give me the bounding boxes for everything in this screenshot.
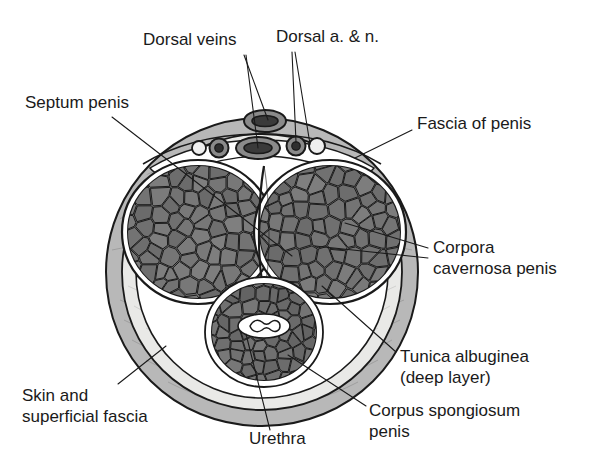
trabecula-cell	[270, 287, 279, 303]
label-corpora-cavernosa-penis: Corporacavernosa penis	[433, 238, 557, 278]
label-skin-and-superficial-fascia: Skin andsuperficial fascia	[22, 386, 148, 426]
trabecula-cell	[123, 159, 140, 175]
label-fascia-of-penis: Fascia of penis	[417, 114, 531, 133]
trabecula-cell	[220, 248, 237, 265]
trabecula-cell	[398, 171, 429, 184]
trabecula-cell	[397, 157, 423, 173]
trabecula-cell	[78, 155, 122, 173]
trabecula-cell	[381, 153, 398, 171]
trabecula-cell	[392, 171, 406, 189]
label-dorsal-veins: Dorsal veins	[143, 30, 237, 49]
label-urethra: Urethra	[249, 429, 306, 448]
trabecula-cell	[225, 234, 238, 251]
trabecula-cell	[256, 286, 270, 301]
trabecula-cell	[269, 214, 284, 232]
trabecula-cell	[293, 202, 308, 218]
leader-line-fascia-of-penis	[355, 130, 412, 158]
dorsal-nerve-right	[309, 138, 325, 154]
dorsal-artery-left	[210, 139, 229, 158]
penis-cross-section-diagram: Dorsal veinsDorsal a. & n.Septum penisFa…	[0, 0, 591, 464]
trabecula-cell	[119, 114, 148, 158]
anatomy-figure: Dorsal veinsDorsal a. & n.Septum penisFa…	[0, 0, 591, 464]
label-tunica-albuginea: Tunica albuginea(deep layer)	[400, 347, 529, 387]
dorsal-nerve-left	[192, 141, 206, 155]
trabecula-cell	[77, 173, 119, 204]
label-dorsal-a-n: Dorsal a. & n.	[276, 27, 379, 46]
trabecula-cell	[76, 113, 118, 159]
trabecula-cell	[130, 119, 151, 160]
trabecula-cell	[117, 169, 132, 184]
trabecula-cell	[401, 177, 444, 201]
trabecula-cell	[369, 229, 386, 248]
trabecula-cell	[300, 246, 317, 264]
label-septum-penis: Septum penis	[25, 93, 129, 112]
trabecula-cell	[185, 191, 200, 206]
trabecula-cell	[386, 119, 408, 160]
trabecula-cell	[264, 346, 277, 361]
trabecula-cell	[369, 119, 386, 161]
label-corpus-spongiosum-penis: Corpus spongiosumpenis	[369, 401, 520, 441]
